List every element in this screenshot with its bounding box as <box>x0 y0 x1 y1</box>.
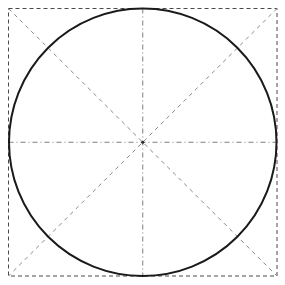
geometric-figure-container <box>0 0 285 285</box>
construction-drawing-canvas <box>0 0 285 285</box>
center-point <box>141 141 144 144</box>
